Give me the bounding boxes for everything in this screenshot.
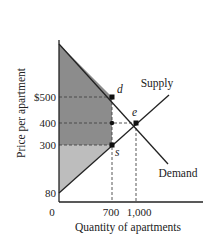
label-s: s xyxy=(115,146,120,158)
y-axis-title: Price per apartment xyxy=(15,67,28,158)
label-e: e xyxy=(132,106,137,118)
y-tick-400: 400 xyxy=(40,117,57,129)
x-axis-title: Quantity of apartments xyxy=(75,221,182,234)
demand-label: Demand xyxy=(159,167,198,179)
x-tick-0: 0 xyxy=(49,206,55,218)
y-tick-300: 300 xyxy=(40,139,57,151)
x-tick-1000: 1,000 xyxy=(127,206,152,218)
label-d: d xyxy=(117,83,123,95)
supply-demand-chart: d e s Supply Demand $500 400 300 80 0 70… xyxy=(0,0,213,246)
supply-label: Supply xyxy=(141,77,174,90)
point-s xyxy=(110,143,115,148)
point-e xyxy=(134,121,139,126)
y-tick-80: 80 xyxy=(45,187,57,199)
x-tick-700: 700 xyxy=(103,206,120,218)
point-700-400 xyxy=(110,121,114,125)
y-tick-500: $500 xyxy=(34,91,57,103)
point-d xyxy=(110,95,115,100)
